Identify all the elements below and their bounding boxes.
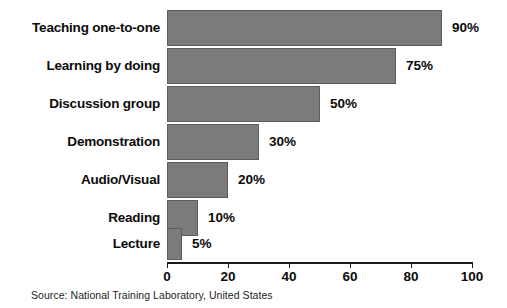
retention-pyramid-bar-chart: Teaching one-to-one 90% Learning by doin… <box>0 0 507 308</box>
x-axis-tick <box>228 262 229 268</box>
category-label: Demonstration <box>67 124 160 160</box>
category-label: Learning by doing <box>46 48 160 84</box>
bar <box>167 228 182 260</box>
source-note: Source: National Training Laboratory, Un… <box>31 289 273 301</box>
x-axis-tick <box>289 262 290 268</box>
bar-value-label: 90% <box>452 10 479 46</box>
x-axis-tick-label: 60 <box>320 269 380 284</box>
bar-value-label: 75% <box>406 48 433 84</box>
x-axis-tick-label: 20 <box>198 269 258 284</box>
plot-area: Teaching one-to-one 90% Learning by doin… <box>0 0 507 262</box>
bar <box>167 162 228 198</box>
bar-row: Lecture 5% <box>0 228 507 260</box>
bar-value-label: 30% <box>269 124 296 160</box>
bar <box>167 10 442 46</box>
bar-value-label: 5% <box>192 228 212 260</box>
category-label: Discussion group <box>49 86 160 122</box>
bar-value-label: 50% <box>330 86 357 122</box>
bar-value-label: 20% <box>238 162 265 198</box>
x-axis-tick-label: 0 <box>137 269 197 284</box>
category-label: Lecture <box>113 228 160 260</box>
x-axis-tick <box>472 262 473 268</box>
bar <box>167 86 320 122</box>
bar-row: Demonstration 30% <box>0 124 507 160</box>
bar-row: Audio/Visual 20% <box>0 162 507 198</box>
x-axis-tick <box>167 262 168 268</box>
x-axis: 0 20 40 60 80 100 <box>167 262 472 264</box>
bar-row: Learning by doing 75% <box>0 48 507 84</box>
bar <box>167 124 259 160</box>
bar-row: Discussion group 50% <box>0 86 507 122</box>
x-axis-tick <box>350 262 351 268</box>
bar-row: Teaching one-to-one 90% <box>0 10 507 46</box>
category-label: Teaching one-to-one <box>32 10 160 46</box>
x-axis-tick-label: 40 <box>259 269 319 284</box>
x-axis-tick <box>411 262 412 268</box>
category-label: Audio/Visual <box>81 162 160 198</box>
x-axis-tick-label: 80 <box>381 269 441 284</box>
x-axis-tick-label: 100 <box>442 269 502 284</box>
bar <box>167 48 396 84</box>
